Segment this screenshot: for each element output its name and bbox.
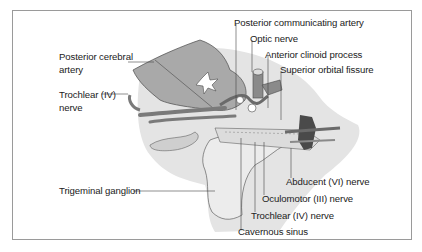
optic-nerve-shape [253,72,263,98]
label-optic-nerve: Optic nerve [250,33,298,44]
label-trigeminal-ganglion: Trigeminal ganglion [59,185,140,196]
label-abducent-nerve: Abducent (VI) nerve [286,176,369,187]
label-posterior-communicating-artery: Posterior communicating artery [234,17,364,28]
label-trochlear-nerve-left-line2: nerve [59,102,83,113]
label-trochlear-nerve-left-line1: Trochlear (IV) [59,89,116,100]
label-cavernous-sinus: Cavernous sinus [238,226,308,237]
label-anterior-clinoid-process: Anterior clinoid process [265,49,362,60]
label-posterior-cerebral-artery-line2: artery [59,64,83,75]
anatomy-illustration [0,0,422,252]
label-trochlear-nerve-bottom: Trochlear (IV) nerve [251,210,334,221]
label-oculomotor-nerve: Oculomotor (III) nerve [262,193,353,204]
label-superior-orbital-fissure: Superior orbital fissure [280,64,374,75]
label-posterior-cerebral-artery-line1: Posterior cerebral [59,51,133,62]
